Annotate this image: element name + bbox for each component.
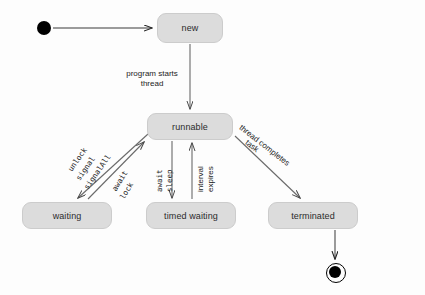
state-waiting-label: waiting [53, 211, 82, 221]
edge-label-expires: expires [206, 166, 216, 192]
edge-label-await-center-text: await [155, 169, 164, 192]
edge-label-expires-text: expires [206, 166, 215, 192]
edge-label-await-center: await [155, 169, 164, 192]
edge-label-program-starts-thread: program startsthread [118, 69, 186, 88]
edge-label-sleep: sleep [165, 169, 174, 192]
state-timed-waiting[interactable]: timed waiting [146, 202, 236, 229]
initial-node-icon [37, 21, 51, 35]
state-runnable-label: runnable [172, 122, 208, 132]
edge-label-interval-text: interval [196, 166, 205, 192]
state-new-label: new [182, 23, 199, 33]
state-waiting[interactable]: waiting [22, 202, 112, 229]
state-new[interactable]: new [157, 13, 223, 43]
edge-label-sleep-text: sleep [165, 169, 174, 192]
edge-label-interval: interval [196, 166, 206, 192]
state-terminated-label: terminated [291, 211, 335, 221]
final-node-icon [329, 266, 341, 278]
state-runnable[interactable]: runnable [147, 113, 233, 140]
state-diagram-canvas: new runnable waiting timed waiting termi… [0, 0, 425, 295]
state-terminated[interactable]: terminated [268, 202, 358, 229]
edge-label-line-2: thread [141, 79, 164, 88]
state-timed-waiting-label: timed waiting [164, 211, 218, 221]
diagram-edges-layer [0, 0, 425, 295]
edge-label-line-1: program starts [126, 69, 178, 78]
